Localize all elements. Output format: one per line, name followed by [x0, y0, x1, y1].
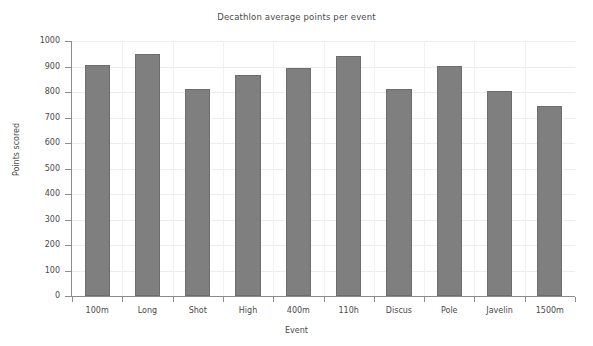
x-axis-tick: [424, 297, 425, 302]
x-axis-tick: [273, 297, 274, 302]
x-axis-tick-label: 1500m: [525, 306, 575, 315]
bar-shot: [185, 89, 210, 296]
y-axis-tick: [65, 67, 71, 68]
y-axis-tick-label: 1000: [14, 37, 60, 45]
y-axis-title: Points scored: [12, 110, 21, 190]
x-axis-tick: [72, 297, 73, 302]
y-axis-tick: [65, 245, 71, 246]
gridline-vertical: [273, 41, 274, 296]
x-axis-tick: [474, 297, 475, 302]
x-axis-tick-label: High: [223, 306, 273, 315]
y-axis-tick-label: 300: [14, 216, 60, 224]
gridline-vertical: [173, 41, 174, 296]
bar-400m: [286, 68, 311, 296]
bar-javelin: [487, 91, 512, 296]
bar-high: [235, 75, 260, 296]
y-axis-tick: [65, 220, 71, 221]
x-axis-tick-label: 110h: [324, 306, 374, 315]
x-axis-tick-label: Javelin: [474, 306, 524, 315]
y-axis-tick: [65, 169, 71, 170]
y-axis-line: [71, 41, 72, 297]
y-axis-tick-label: 800: [14, 88, 60, 96]
y-axis-tick-label: 200: [14, 241, 60, 249]
gridline-vertical: [374, 41, 375, 296]
x-axis-tick-label: Long: [122, 306, 172, 315]
bar-chart: Decathlon average points per event 01002…: [0, 0, 593, 346]
x-axis-tick: [374, 297, 375, 302]
bar-110h: [336, 56, 361, 296]
x-axis-tick: [324, 297, 325, 302]
x-axis-tick-label: Shot: [173, 306, 223, 315]
y-axis-tick: [65, 271, 71, 272]
y-axis-tick-label: 500: [14, 165, 60, 173]
y-axis-tick: [65, 143, 71, 144]
gridline-vertical: [525, 41, 526, 296]
x-axis-tick-label: Discus: [374, 306, 424, 315]
y-axis-tick-label: 600: [14, 139, 60, 147]
bar-pole: [437, 66, 462, 296]
x-axis-tick: [173, 297, 174, 302]
bar-discus: [386, 89, 411, 296]
y-axis-tick: [65, 296, 71, 297]
x-axis-tick: [525, 297, 526, 302]
y-axis-tick-label: 400: [14, 190, 60, 198]
gridline-vertical: [122, 41, 123, 296]
y-axis-tick: [65, 194, 71, 195]
chart-title: Decathlon average points per event: [0, 12, 593, 22]
bar-long: [135, 54, 160, 296]
x-axis-tick: [223, 297, 224, 302]
y-axis-tick: [65, 41, 71, 42]
gridline-vertical: [324, 41, 325, 296]
x-axis-tick-label: 100m: [72, 306, 122, 315]
y-axis-tick-label: 0: [14, 292, 60, 300]
gridline-vertical: [474, 41, 475, 296]
bar-1500m: [537, 106, 562, 296]
y-axis-tick-label: 700: [14, 114, 60, 122]
x-axis-title: Event: [0, 326, 593, 335]
x-axis-tick-label: 400m: [273, 306, 323, 315]
y-axis-tick: [65, 118, 71, 119]
y-axis-tick-label: 100: [14, 267, 60, 275]
x-axis-tick: [122, 297, 123, 302]
gridline-vertical: [424, 41, 425, 296]
x-axis-tick-label: Pole: [424, 306, 474, 315]
bar-100m: [85, 65, 110, 296]
y-axis-tick-label: 900: [14, 63, 60, 71]
x-axis-tick: [575, 297, 576, 302]
y-axis-tick: [65, 92, 71, 93]
gridline-vertical: [223, 41, 224, 296]
